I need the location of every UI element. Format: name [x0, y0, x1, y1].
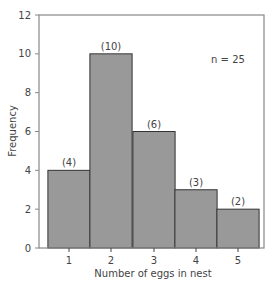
- y-tick-label: 10: [18, 48, 31, 59]
- x-axis-label: Number of eggs in nest: [94, 268, 211, 279]
- bar-5: [217, 209, 259, 248]
- sample-size-annotation: n = 25: [211, 54, 245, 65]
- x-axis: 12345: [66, 248, 241, 266]
- x-tick-label: 3: [151, 255, 157, 266]
- bars-group: (4)(10)(6)(3)(2): [48, 41, 259, 248]
- bar-3: [133, 132, 175, 249]
- bar-value-label: (10): [101, 41, 122, 52]
- x-tick-label: 4: [193, 255, 199, 266]
- y-tick-label: 6: [25, 126, 31, 137]
- y-tick-label: 0: [25, 243, 31, 254]
- histogram-chart: (4)(10)(6)(3)(2) 024681012 12345 Frequen…: [0, 0, 275, 287]
- y-tick-label: 8: [25, 87, 31, 98]
- bar-value-label: (6): [147, 119, 161, 130]
- x-tick-label: 2: [108, 255, 114, 266]
- bar-2: [90, 54, 132, 248]
- x-tick-label: 5: [235, 255, 241, 266]
- y-axis: 024681012: [18, 10, 39, 254]
- bar-value-label: (2): [231, 196, 245, 207]
- x-tick-label: 1: [66, 255, 72, 266]
- y-tick-label: 4: [25, 165, 31, 176]
- bar-value-label: (3): [189, 177, 203, 188]
- y-tick-label: 2: [25, 204, 31, 215]
- y-tick-label: 12: [18, 10, 31, 21]
- bar-4: [175, 190, 217, 248]
- y-axis-label: Frequency: [7, 105, 18, 157]
- bar-value-label: (4): [62, 157, 76, 168]
- bar-1: [48, 170, 90, 248]
